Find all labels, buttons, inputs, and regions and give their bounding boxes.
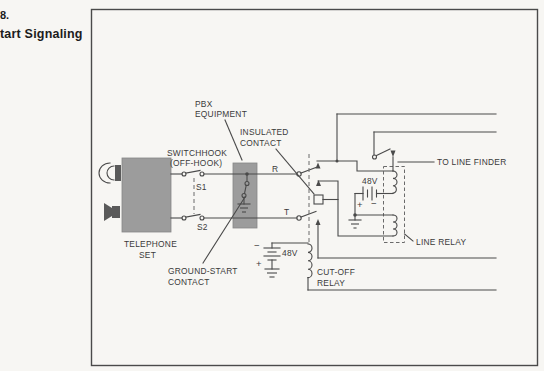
tip-lead-label: T xyxy=(284,207,289,217)
battery-left-voltage: 48V xyxy=(282,248,298,258)
battery-right-voltage: 48V xyxy=(362,176,378,186)
ground-start-leader xyxy=(203,197,245,263)
insulated-contact-label-1: INSULATED xyxy=(240,127,289,137)
insulated-contact-label-2: CONTACT xyxy=(240,138,282,148)
switchhook-label-2: (OFF-HOOK) xyxy=(170,158,222,168)
receiver-icon xyxy=(99,163,121,183)
ground-start-signaling-diagram: 8. tart Signaling TELEPHONE SET R T xyxy=(0,0,544,371)
switchhook-contacts: S1 S2 xyxy=(182,171,208,233)
switchhook-label-1: SWITCHHOOK xyxy=(167,148,227,158)
line-relay: 48V + − LINE RELAY xyxy=(349,167,466,248)
insulated-contact-square xyxy=(314,195,323,204)
pbx-label-1: PBX xyxy=(195,99,213,109)
ground-symbol xyxy=(349,215,361,228)
s1-label: S1 xyxy=(196,182,207,192)
pbx-label-2: EQUIPMENT xyxy=(195,109,247,119)
line-relay-leader xyxy=(405,234,414,241)
caption-number: 8. xyxy=(0,9,9,21)
battery-left-minus: − xyxy=(254,240,260,251)
ring-lead-label: R xyxy=(272,164,278,174)
trunk-lines xyxy=(308,114,496,290)
cutoff-coil-winding xyxy=(308,244,312,278)
battery-right-minus: − xyxy=(371,198,377,209)
battery-left-plus: + xyxy=(256,258,262,269)
cutoff-relay-coil: − + 48V CUT-OFF RELAY xyxy=(254,240,355,290)
battery-right-plus: + xyxy=(357,199,363,210)
line-relay-upper-winding xyxy=(393,171,397,193)
transmitter-icon xyxy=(104,203,120,221)
ground-start-label-1: GROUND-START xyxy=(168,266,238,276)
caption-title: tart Signaling xyxy=(0,27,83,41)
insulated-contact-leader xyxy=(276,149,314,194)
telephone-set-label-1: TELEPHONE xyxy=(124,239,177,249)
battery-48v-right: 48V + − xyxy=(355,176,378,210)
battery-48v-left: − + 48V xyxy=(254,240,298,277)
telephone-set-label-2: SET xyxy=(139,250,156,260)
page: 8. tart Signaling TELEPHONE SET R T xyxy=(0,0,544,371)
cutoff-relay-contacts xyxy=(297,114,393,258)
cutoff-relay-label-2: RELAY xyxy=(317,278,345,288)
to-line-finder-label: TO LINE FINDER xyxy=(437,157,506,167)
telephone-set: TELEPHONE SET xyxy=(99,158,177,260)
ground-symbol xyxy=(265,269,279,277)
line-finder-contact: TO LINE FINDER xyxy=(373,132,507,171)
s2-label: S2 xyxy=(197,222,208,232)
figure-caption: 8. tart Signaling xyxy=(0,9,83,41)
cutoff-relay-label-1: CUT-OFF xyxy=(317,267,355,277)
ground-start-label-2: CONTACT xyxy=(168,277,210,287)
line-relay-label: LINE RELAY xyxy=(416,237,466,247)
line-relay-lower-winding xyxy=(393,215,397,236)
telephone-set-block xyxy=(122,158,171,232)
